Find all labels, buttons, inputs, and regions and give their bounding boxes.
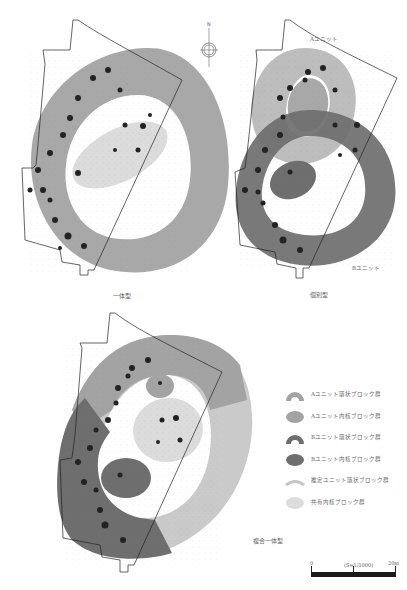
figure-kobetsu [235,20,397,278]
north-arrow: N [200,21,218,67]
legend-item-a-ring: Aユニット環状ブロック群 [284,386,407,408]
label-a-unit: Aユニット [310,35,338,43]
caption-kobetsu: 個別型 [310,290,328,299]
ellipse-icon [284,410,306,424]
legend-label: 共有内核ブロック群 [311,498,365,506]
scale-bar: 0 (S=1/1000) 20m [310,560,400,582]
label-b-unit: Bユニット [352,264,380,272]
arc-icon [284,431,306,445]
ellipse-icon [284,453,306,467]
thin-arc-icon [284,474,306,488]
legend-item-shared-core: 共有内核ブロック群 [284,494,407,516]
legend-label: Bユニット内核ブロック群 [311,455,381,463]
scale-ratio: (S=1/1000) [344,562,373,568]
legend-label: Aユニット内核ブロック群 [311,412,381,420]
svg-text:N: N [207,21,211,27]
legend-item-b-core: Bユニット内核ブロック群 [284,451,407,473]
caption-ittai: 一体型 [113,291,131,300]
legend: Aユニット環状ブロック群 Aユニット内核ブロック群 Bユニット環状ブロック群 B… [284,386,407,515]
caption-fukugo: 複合一体型 [253,536,283,545]
ellipse-icon [284,496,306,510]
legend-label: Bユニット環状ブロック群 [311,433,381,441]
scale-end: 20m [388,560,399,566]
arc-icon [284,388,306,402]
legend-label: 推定ユニット環状ブロック群 [311,476,389,484]
legend-item-a-core: Aユニット内核ブロック群 [284,408,407,430]
legend-label: Aユニット環状ブロック群 [311,390,381,398]
figure-fukugo [57,313,252,572]
legend-item-b-ring: Bユニット環状ブロック群 [284,429,407,451]
figure-ittai [22,20,229,275]
scale-bar-fill [311,572,396,577]
legend-item-estimated-ring: 推定ユニット環状ブロック群 [284,472,407,494]
